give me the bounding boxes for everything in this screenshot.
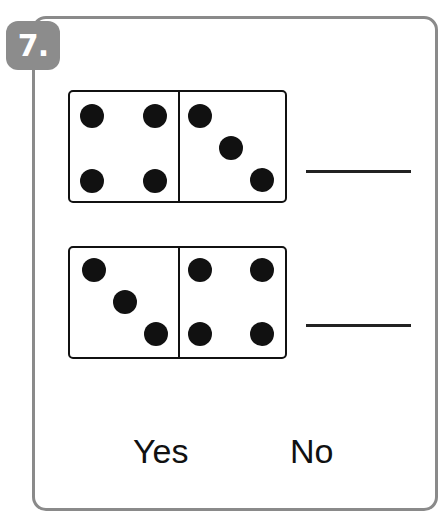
pip <box>188 258 212 282</box>
choice-no[interactable]: No <box>290 432 333 471</box>
answer-line-1[interactable] <box>306 170 411 173</box>
domino-1-right-half-three <box>178 92 286 201</box>
problem-number-badge: 7. <box>6 21 60 70</box>
pip <box>250 258 274 282</box>
pip <box>250 322 274 346</box>
pip <box>143 104 167 128</box>
pip <box>80 169 104 193</box>
domino-2-left-half-three <box>70 248 180 357</box>
pip <box>144 322 168 346</box>
pip <box>80 104 104 128</box>
domino-1-left-half-four <box>70 92 180 201</box>
domino-2 <box>68 246 287 359</box>
pip <box>188 104 212 128</box>
pip <box>188 322 212 346</box>
answer-line-2[interactable] <box>306 324 411 327</box>
choice-yes[interactable]: Yes <box>133 432 188 471</box>
domino-1 <box>68 90 287 203</box>
pip <box>82 258 106 282</box>
pip <box>113 290 137 314</box>
pip <box>219 136 243 160</box>
domino-2-right-half-four <box>178 248 286 357</box>
pip <box>143 169 167 193</box>
pip <box>250 168 274 192</box>
